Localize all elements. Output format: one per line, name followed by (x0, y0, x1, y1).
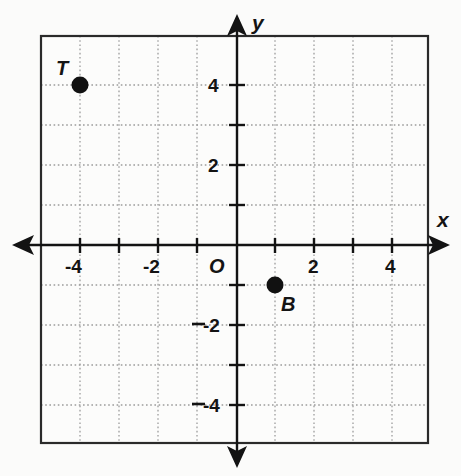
y-tick-label-neg2: -2 (203, 316, 220, 335)
x-tick-label-pos4: 4 (385, 257, 396, 276)
y-tick-label-pos2: 2 (208, 156, 219, 175)
point-marker-b[interactable] (267, 277, 284, 294)
y-axis-label: y (252, 12, 264, 33)
point-label-t: T (56, 58, 68, 78)
coordinate-plane-graphic (0, 0, 461, 476)
y-tick-label-neg4: -4 (203, 396, 220, 415)
x-tick-label-pos2: 2 (308, 257, 319, 276)
x-tick-label-neg4: -4 (65, 257, 82, 276)
y-tick-label-pos4: 4 (208, 76, 219, 95)
point-marker-t[interactable] (72, 77, 89, 94)
figure-canvas: y x O -4 -2 2 4 4 2 -2 -4 T B (0, 0, 461, 476)
origin-label: O (209, 256, 225, 276)
plot-background (41, 36, 428, 443)
x-tick-label-neg2: -2 (143, 257, 160, 276)
point-label-b: B (281, 294, 295, 314)
x-axis-label: x (437, 209, 449, 230)
